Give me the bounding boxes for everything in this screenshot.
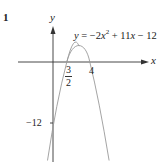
equation-term-a: = −2 — [79, 30, 101, 41]
root-numerator: 3 — [66, 65, 71, 75]
graph-canvas — [0, 0, 161, 163]
x-axis-label: x — [151, 55, 156, 66]
root-label-four: 4 — [89, 66, 94, 76]
x-axis-arrow-icon — [141, 60, 149, 65]
equation-term-c: − 12 — [135, 30, 157, 41]
y-axis-label: y — [50, 12, 55, 23]
parabola-curve — [48, 42, 110, 161]
y-axis-arrow-icon — [51, 26, 56, 34]
equation-term-b: + 11 — [109, 30, 130, 41]
root-label-three-halves: 3 2 — [65, 65, 72, 88]
y-intercept-label: −12 — [26, 118, 42, 128]
root-denominator: 2 — [66, 78, 71, 88]
equation-label: y = −2x2 + 11x − 12 — [74, 29, 157, 41]
